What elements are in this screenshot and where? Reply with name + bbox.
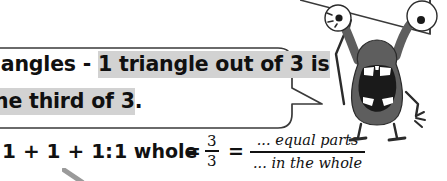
equals-sign-1: = — [185, 140, 201, 162]
bubble-line2-highlight: ne third of 3 — [0, 88, 135, 115]
monster-character — [306, 0, 447, 148]
word-fraction-denominator: ... in the whole — [250, 154, 365, 173]
speech-bubble-text: iangles - 1 triangle out of 3 is ne thir… — [0, 52, 280, 114]
bubble-line2-plain: . — [135, 89, 143, 113]
bubble-line1-highlight: 1 triangle out of 3 is — [98, 51, 330, 78]
numeric-fraction: 3 3 — [205, 133, 219, 169]
bubble-text-line-1: iangles - 1 triangle out of 3 is — [0, 52, 280, 77]
worksheet-page: iangles - 1 triangle out of 3 is ne thir… — [0, 0, 447, 181]
partial-gray-stroke-icon — [62, 168, 88, 181]
bubble-line1-plain: iangles - — [0, 52, 98, 76]
word-fraction-bar — [250, 151, 365, 153]
sum-label: 1 + 1 + 1: — [2, 139, 113, 163]
equals-sign-2: = — [228, 140, 244, 162]
fraction-numerator: 3 — [205, 133, 219, 149]
bubble-text-line-2: ne third of 3. — [0, 89, 280, 114]
fraction-denominator: 3 — [205, 153, 219, 169]
